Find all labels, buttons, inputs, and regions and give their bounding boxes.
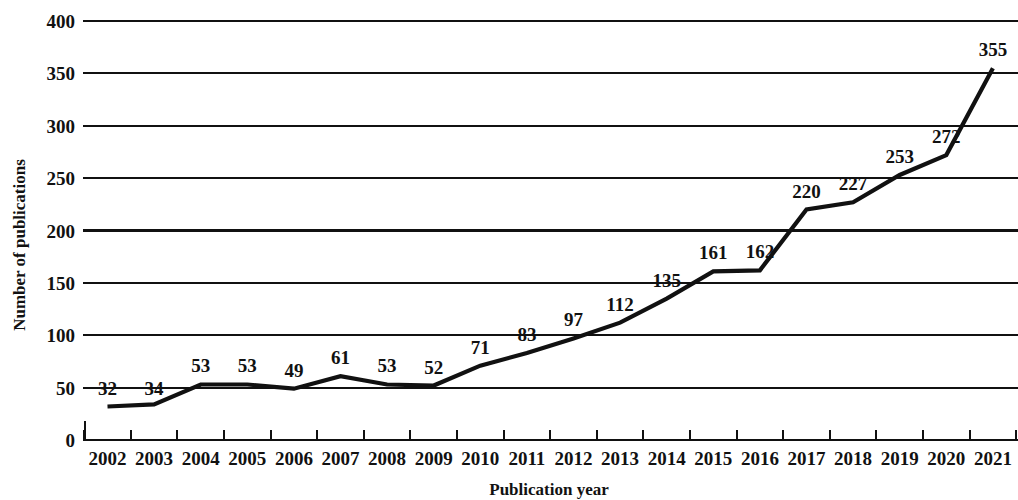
x-tick-label: 2019: [881, 448, 919, 469]
data-point-label: 52: [424, 357, 443, 378]
y-tick-label: 50: [56, 378, 75, 399]
y-tick-label: 200: [47, 221, 76, 242]
y-tick-label: 150: [47, 273, 76, 294]
x-tick-label: 2003: [135, 448, 173, 469]
x-tick-label: 2014: [648, 448, 687, 469]
data-point-label: 34: [145, 378, 165, 399]
data-point-label: 135: [652, 270, 681, 291]
x-tick-label: 2008: [368, 448, 406, 469]
data-point-label: 355: [979, 39, 1008, 60]
data-point-label: 227: [839, 173, 868, 194]
x-tick-label: 2005: [228, 448, 266, 469]
data-point-label: 253: [885, 146, 914, 167]
x-tick-label: 2017: [788, 448, 827, 469]
data-point-label: 49: [284, 360, 303, 381]
y-tick-label: 100: [47, 325, 76, 346]
x-tick-label: 2015: [694, 448, 732, 469]
x-tick-label: 2012: [555, 448, 593, 469]
x-tick-label: 2016: [741, 448, 779, 469]
y-tick-label: 350: [47, 63, 76, 84]
x-tick-label: 2018: [834, 448, 872, 469]
data-point-label: 53: [378, 355, 397, 376]
data-point-label: 97: [564, 309, 584, 330]
data-point-label: 112: [606, 294, 633, 315]
data-point-label: 53: [191, 355, 210, 376]
x-tick-label: 2004: [182, 448, 221, 469]
x-axis-tick-marks: [84, 430, 1016, 440]
data-point-label: 61: [331, 347, 350, 368]
chart-canvas: 050100150200250300350400 200220032004200…: [0, 0, 1018, 500]
data-point-label: 220: [792, 181, 821, 202]
data-point-label: 71: [471, 337, 490, 358]
y-tick-label: 0: [66, 430, 76, 451]
x-axis-title: Publication year: [489, 480, 609, 499]
data-point-label: 161: [699, 242, 728, 263]
chart-background: [0, 0, 1018, 500]
x-tick-label: 2002: [89, 448, 127, 469]
x-tick-label: 2020: [927, 448, 965, 469]
y-tick-label: 250: [47, 168, 76, 189]
y-axis-title: Number of publications: [10, 159, 29, 331]
data-point-label: 32: [98, 378, 117, 399]
x-tick-label: 2007: [322, 448, 361, 469]
x-tick-label: 2021: [974, 448, 1012, 469]
data-point-label: 53: [238, 355, 257, 376]
x-tick-label: 2006: [275, 448, 313, 469]
data-point-label: 272: [932, 126, 961, 147]
x-tick-label: 2010: [461, 448, 499, 469]
x-tick-label: 2011: [508, 448, 545, 469]
line-chart: 050100150200250300350400 200220032004200…: [0, 0, 1018, 500]
x-tick-label: 2009: [415, 448, 453, 469]
y-tick-label: 300: [47, 116, 76, 137]
x-tick-label: 2013: [601, 448, 639, 469]
data-point-label: 162: [746, 241, 775, 262]
y-tick-label: 400: [47, 11, 76, 32]
data-point-label: 83: [517, 324, 536, 345]
